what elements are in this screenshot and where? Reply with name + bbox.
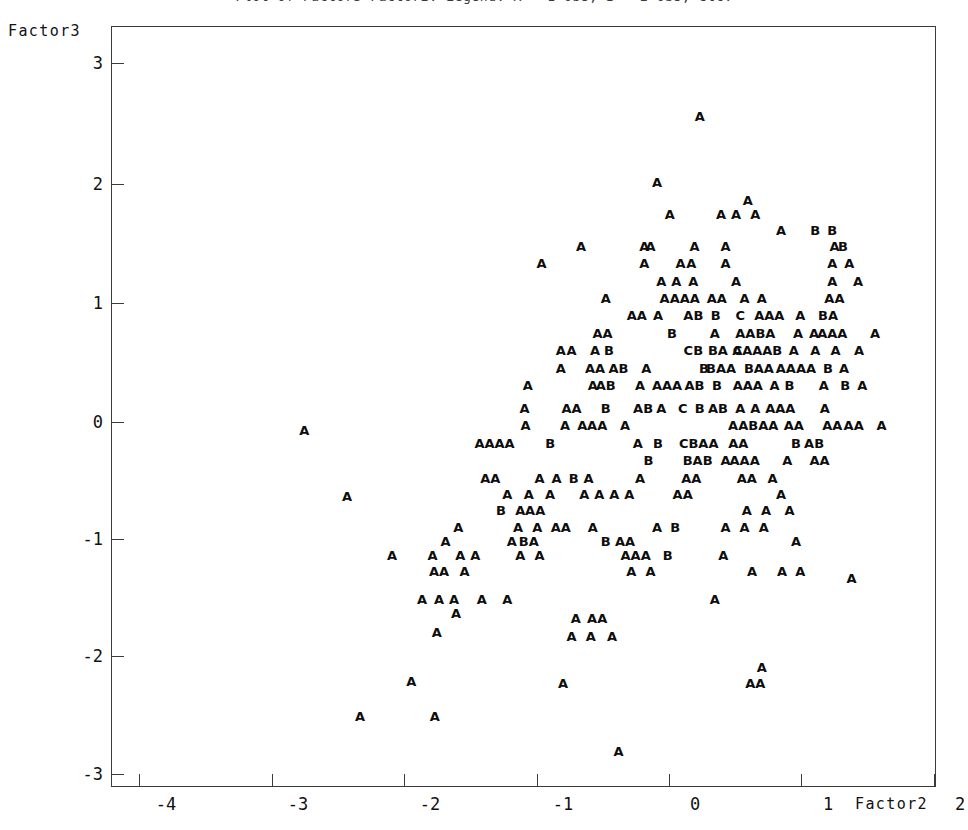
- data-point-symbol: A: [827, 275, 837, 288]
- data-point-symbol: AAA: [754, 309, 784, 322]
- data-point-symbol: AB: [596, 379, 616, 392]
- data-point-symbol: A: [695, 109, 705, 122]
- data-point-symbol: B: [601, 534, 611, 547]
- data-point-symbol: AB: [708, 401, 728, 414]
- plot-area: 3210-1-2-3 -4-3-2-1012 AAAAAAAABBAAAAAAB…: [111, 26, 936, 787]
- data-point-symbol: B: [785, 379, 795, 392]
- data-point-symbol: A: [757, 660, 767, 673]
- data-point-symbol: A: [417, 592, 427, 605]
- data-point-symbol: B: [744, 361, 754, 374]
- data-point-symbol: B: [840, 379, 850, 392]
- data-point-symbol: A: [586, 630, 596, 643]
- data-point-symbol: A: [854, 344, 864, 357]
- data-point-symbol: A: [784, 504, 794, 517]
- x-tick-mark: [139, 774, 140, 787]
- data-point-symbol: AAAA: [776, 361, 816, 374]
- data-point-symbol: B: [711, 309, 721, 322]
- data-point-symbol: A: [740, 520, 750, 533]
- data-point-symbol: A: [742, 504, 752, 517]
- data-point-symbol: AA: [681, 471, 701, 484]
- data-point-symbol: A: [387, 548, 397, 561]
- data-point-symbol: AA: [824, 291, 844, 304]
- data-point-symbol: AA: [429, 564, 449, 577]
- data-point-symbol: A: [584, 471, 594, 484]
- data-point-symbol: A: [689, 240, 699, 253]
- data-point-symbol: AA: [525, 504, 545, 517]
- data-point-symbol: A: [761, 504, 771, 517]
- data-point-symbol: A: [735, 401, 745, 414]
- data-point-symbol: CBAA: [679, 436, 719, 449]
- data-point-symbol: BA: [519, 534, 539, 547]
- data-point-symbol: A: [552, 471, 562, 484]
- x-tick-label: -2: [420, 794, 440, 814]
- data-point-symbol: A: [633, 436, 643, 449]
- data-point-symbol: BAA: [706, 361, 736, 374]
- data-point-symbol: A: [765, 401, 775, 414]
- data-point-symbol: A: [455, 548, 465, 561]
- data-point-symbol: A: [646, 240, 656, 253]
- data-point-symbol: A: [688, 275, 698, 288]
- data-point-symbol: A: [477, 592, 487, 605]
- data-point-symbol: A: [639, 256, 649, 269]
- data-point-symbol: A: [776, 487, 786, 500]
- data-point-symbol: A: [718, 548, 728, 561]
- data-point-symbol: A: [545, 487, 555, 500]
- y-tick-mark: [111, 63, 124, 64]
- x-tick-mark: [934, 774, 935, 787]
- data-point-symbol: A: [720, 256, 730, 269]
- data-point-symbol: A: [857, 379, 867, 392]
- y-tick-label: 3: [93, 53, 103, 73]
- data-point-symbol: A: [534, 471, 544, 484]
- y-tick-mark: [111, 656, 124, 657]
- data-point-symbol: A: [460, 564, 470, 577]
- data-point-symbol: BA: [818, 309, 838, 322]
- data-point-symbol: AA: [737, 471, 757, 484]
- x-tick-label: 1: [823, 794, 833, 814]
- data-point-symbol: A: [601, 291, 611, 304]
- data-point-symbol: B: [643, 454, 653, 467]
- data-point-symbol: A: [355, 709, 365, 722]
- data-point-symbol: A: [502, 592, 512, 605]
- data-point-symbol: A: [434, 592, 444, 605]
- data-point-symbol: A: [588, 520, 598, 533]
- data-point-symbol: AA: [615, 534, 635, 547]
- y-tick-label: -1: [83, 529, 103, 549]
- data-point-symbol: A: [767, 471, 777, 484]
- data-point-symbol: AA: [754, 361, 774, 374]
- data-point-symbol: A: [519, 401, 529, 414]
- data-point-symbol: A: [406, 674, 416, 687]
- y-tick-mark: [111, 303, 124, 304]
- data-point-symbol: A: [594, 487, 604, 500]
- data-point-symbol: A: [571, 611, 581, 624]
- data-point-symbol: A: [626, 564, 636, 577]
- data-point-symbol: A: [853, 275, 863, 288]
- x-tick-label: 2: [955, 794, 965, 814]
- data-point-symbol: B: [663, 548, 673, 561]
- data-point-symbol: A: [710, 592, 720, 605]
- data-point-symbol: B: [695, 401, 705, 414]
- data-point-symbol: A: [757, 291, 767, 304]
- data-point-symbol: A: [624, 487, 634, 500]
- data-point-symbol: A: [819, 379, 829, 392]
- data-point-symbol: A: [793, 326, 803, 339]
- data-point-symbol: A: [566, 344, 576, 357]
- data-point-symbol: AA: [587, 611, 607, 624]
- data-point-symbol: AABAA: [728, 419, 778, 432]
- x-tick-mark: [537, 774, 538, 787]
- y-axis-label: Factor3: [8, 22, 81, 40]
- data-point-symbol: AA: [585, 361, 605, 374]
- data-point-symbol: A: [537, 256, 547, 269]
- data-point-symbol: A: [740, 291, 750, 304]
- data-point-symbol: B: [604, 344, 614, 357]
- data-point-symbol: A: [534, 548, 544, 561]
- x-tick-mark: [272, 774, 273, 787]
- data-point-symbol: A: [342, 490, 352, 503]
- data-point-symbol: AA: [745, 676, 765, 689]
- data-point-symbol: A: [789, 344, 799, 357]
- data-point-symbol: A: [576, 240, 586, 253]
- data-point-symbol: AA: [775, 401, 795, 414]
- data-point-symbol: A: [720, 240, 730, 253]
- data-point-symbol: A: [502, 487, 512, 500]
- data-point-symbol: A: [579, 487, 589, 500]
- data-point-symbol: A: [820, 401, 830, 414]
